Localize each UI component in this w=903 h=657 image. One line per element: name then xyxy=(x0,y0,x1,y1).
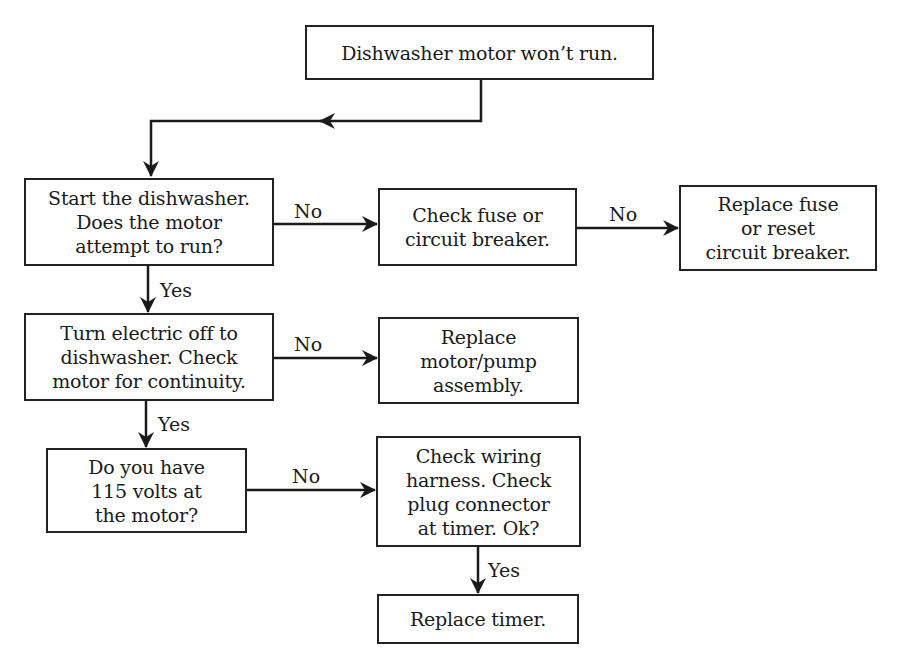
node-q1-start-dishwasher: Start the dishwasher. Does the motor att… xyxy=(24,178,274,266)
label-q1-no: No xyxy=(294,200,322,222)
label-q3-no: No xyxy=(292,465,320,487)
node-start: Dishwasher motor won’t run. xyxy=(305,25,654,80)
edge-start-to-q1 xyxy=(151,79,481,176)
node-check-fuse: Check fuse or circuit breaker. xyxy=(378,188,577,266)
label-q1-yes: Yes xyxy=(160,279,192,301)
node-q2-check-continuity: Turn electric off to dishwasher. Check m… xyxy=(24,313,274,401)
node-replace-motor: Replace motor/pump assembly. xyxy=(378,317,579,404)
node-replace-timer: Replace timer. xyxy=(377,594,579,644)
label-q2-no: No xyxy=(294,333,322,355)
node-q3-115-volts: Do you have 115 volts at the motor? xyxy=(46,448,247,533)
label-q2-yes: Yes xyxy=(158,413,190,435)
label-check-wiring-yes: Yes xyxy=(488,559,520,581)
node-replace-fuse: Replace fuse or reset circuit breaker. xyxy=(679,185,877,271)
label-check-fuse-no: No xyxy=(609,203,637,225)
node-check-wiring: Check wiring harness. Check plug connect… xyxy=(376,436,581,547)
